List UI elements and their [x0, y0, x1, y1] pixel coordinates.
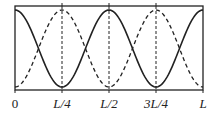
x-label-three-quarter: 3L/4	[144, 96, 168, 112]
x-label-quarter: L/4	[53, 96, 70, 112]
x-label-half: L/2	[100, 96, 117, 112]
vertical-guides	[62, 6, 156, 90]
x-label-0: 0	[12, 96, 19, 112]
x-label-L: L	[199, 96, 206, 112]
